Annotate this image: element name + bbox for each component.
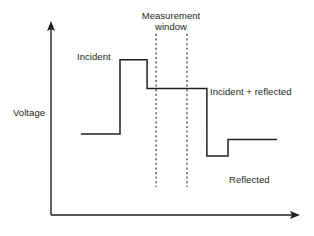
- x-axis: [51, 211, 300, 219]
- incident-plus-reflected-label: Incident + reflected: [210, 86, 292, 97]
- y-axis: [47, 21, 55, 215]
- reflected-label: Reflected: [229, 174, 270, 185]
- voltage-waveform-trace: [81, 60, 277, 156]
- voltage-waveform-figure: Voltage Incident Measurement window Inci…: [0, 0, 314, 236]
- incident-label: Incident: [77, 51, 111, 62]
- figure-canvas: [0, 0, 314, 236]
- measurement-window-label: Measurement window: [126, 10, 216, 32]
- measurement-window-label-line2: window: [155, 21, 187, 32]
- y-axis-label: Voltage: [13, 107, 45, 118]
- measurement-window-label-line1: Measurement: [142, 10, 201, 21]
